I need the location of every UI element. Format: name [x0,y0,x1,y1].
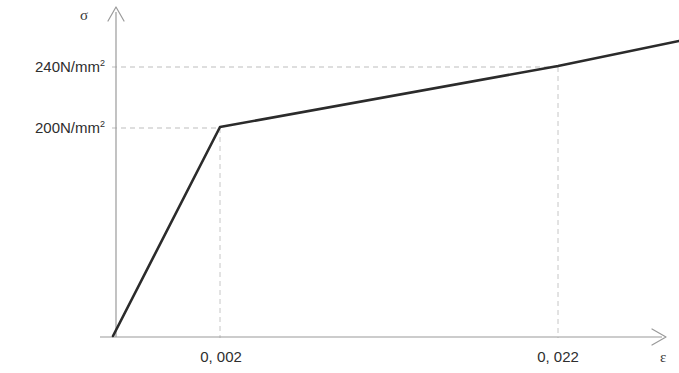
curve-stress-strain [113,41,679,336]
x-axis-symbol: ε [660,350,666,365]
x-tick-label-0002: 0, 002 [160,349,282,364]
y-tick-label-240-exponent: 2 [100,58,105,68]
x-tick-label-0022: 0, 022 [497,349,619,364]
chart-canvas: σ ε 240N/mm2 200N/mm2 0, 002 0, 022 [0,0,679,373]
y-tick-label-200-exponent: 2 [100,119,105,129]
stress-strain-plot [0,0,679,373]
y-tick-label-200-text: 200N/mm [35,119,100,136]
y-tick-label-200: 200N/mm2 [0,120,105,135]
y-tick-label-240: 240N/mm2 [0,59,105,74]
y-tick-label-240-text: 240N/mm [35,58,100,75]
y-axis-symbol: σ [80,8,88,23]
